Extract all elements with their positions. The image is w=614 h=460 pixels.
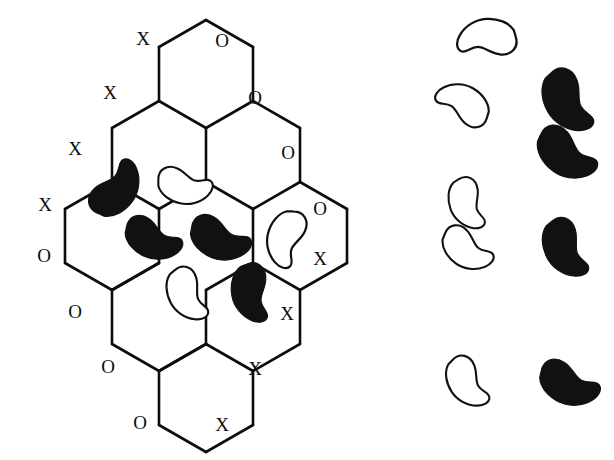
site-label-x: X: [280, 303, 294, 324]
site-label-o: O: [248, 87, 262, 108]
figure-root: XXXXOOOOOOOOXXXX: [0, 0, 614, 460]
site-label-o: O: [37, 245, 51, 266]
site-label-o: O: [68, 301, 82, 322]
site-label-x: X: [313, 248, 327, 269]
site-label-x: X: [215, 414, 229, 435]
site-label-o: O: [101, 356, 115, 377]
site-label-o: O: [313, 198, 327, 219]
figure-background: [0, 0, 614, 460]
site-label-o: O: [215, 30, 229, 51]
site-label-x: X: [103, 82, 117, 103]
site-label-o: O: [133, 412, 147, 433]
lattice-figure-svg: XXXXOOOOOOOOXXXX: [0, 0, 614, 460]
site-label-x: X: [38, 194, 52, 215]
site-label-o: O: [281, 142, 295, 163]
site-label-x: X: [68, 138, 82, 159]
site-label-x: X: [248, 358, 262, 379]
site-label-x: X: [136, 28, 150, 49]
